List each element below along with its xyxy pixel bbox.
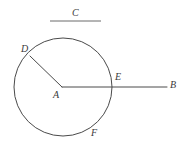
segment-ad <box>30 56 62 87</box>
point-label-b: B <box>170 80 176 90</box>
label-c: C <box>72 8 79 18</box>
geometry-figure: C D A E B F <box>0 0 189 156</box>
point-label-d: D <box>21 44 28 54</box>
point-label-e: E <box>115 72 121 82</box>
point-label-f: F <box>91 128 97 138</box>
point-label-a: A <box>53 90 59 100</box>
